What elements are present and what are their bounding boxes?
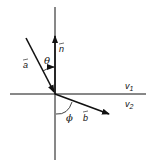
vector-b-overarrow — [83, 111, 88, 112]
vector-b-arrow — [55, 94, 109, 114]
vector-b-label: b — [83, 113, 88, 123]
angle-theta-label: θ — [44, 55, 50, 66]
medium-1-label: v1 — [125, 81, 134, 92]
angle-theta-arc — [43, 67, 54, 71]
diagram-canvas: a n b θ ϕ v1 v2 — [0, 0, 154, 164]
vector-a-label: a — [23, 60, 28, 70]
medium-2-label: v2 — [125, 99, 134, 110]
vector-n-label: n — [59, 44, 64, 54]
angle-phi-label: ϕ — [66, 112, 73, 123]
